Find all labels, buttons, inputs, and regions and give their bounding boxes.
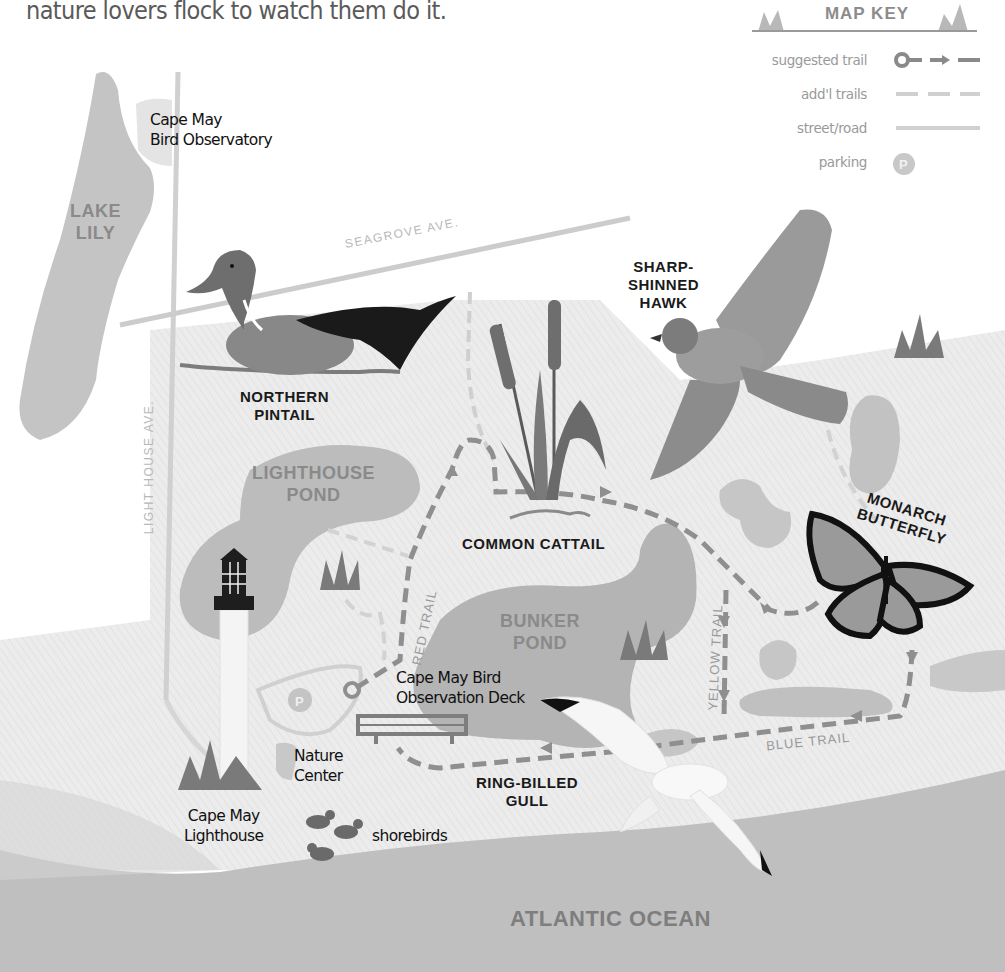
species-label-ring-billed-gull: RING-BILLED GULL bbox=[476, 774, 578, 810]
map-key-label: street/road bbox=[797, 120, 867, 136]
place-label-shorebirds: shorebirds bbox=[372, 826, 447, 846]
water-label-lighthouse-pond: LIGHTHOUSE POND bbox=[252, 462, 375, 506]
street-label-lighthouse-ave: LIGHT HOUSE AVE. bbox=[142, 400, 156, 534]
place-label-observation-deck: Cape May Bird Observation Deck bbox=[396, 668, 525, 708]
water-label-atlantic-ocean: ATLANTIC OCEAN bbox=[510, 906, 711, 932]
place-label-lighthouse: Cape May Lighthouse bbox=[184, 806, 263, 846]
map-key-row-parking: parking P bbox=[752, 152, 982, 176]
map-key-row-addl-trails: add'l trails bbox=[752, 84, 982, 108]
map-key-row-suggested-trail: suggested trail bbox=[752, 50, 982, 74]
map-key-label: add'l trails bbox=[801, 86, 867, 102]
map-key-label: parking bbox=[819, 154, 867, 170]
map-key-divider bbox=[752, 30, 977, 32]
parking-glyph: P bbox=[295, 694, 304, 709]
parking-icon: P bbox=[892, 152, 922, 178]
street-road-icon bbox=[892, 118, 982, 138]
lake-lily bbox=[19, 72, 154, 440]
map-key-row-street-road: street/road bbox=[752, 118, 982, 142]
species-label-common-cattail: COMMON CATTAIL bbox=[462, 535, 605, 553]
place-label-bird-observatory: Cape May Bird Observatory bbox=[150, 110, 272, 150]
species-label-sharp-shinned-hawk: SHARP- SHINNED HAWK bbox=[628, 258, 699, 312]
map-key: MAP KEY suggested trail add'l trails str… bbox=[752, 0, 982, 190]
svg-text:P: P bbox=[899, 157, 908, 172]
place-label-nature-center: Nature Center bbox=[294, 746, 343, 786]
water-label-bunker-pond: BUNKER POND bbox=[500, 610, 580, 654]
species-label-northern-pintail: NORTHERN PINTAIL bbox=[240, 388, 329, 424]
map-key-title: MAP KEY bbox=[752, 0, 982, 28]
map-key-label: suggested trail bbox=[772, 52, 867, 68]
water-label-lake-lily: LAKE LILY bbox=[70, 200, 121, 244]
addl-trails-icon bbox=[892, 84, 982, 104]
suggested-trail-icon bbox=[892, 50, 982, 70]
